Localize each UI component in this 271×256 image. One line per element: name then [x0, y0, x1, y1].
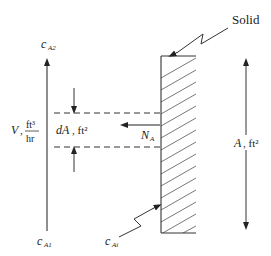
- solid-wall: [161, 56, 196, 240]
- dA-label: dA , ft²: [56, 123, 88, 137]
- svg-text:A1: A1: [43, 241, 52, 249]
- svg-text:N: N: [140, 128, 150, 142]
- solid-label: Solid: [232, 12, 260, 27]
- interface-leader: [119, 206, 158, 237]
- svg-text:, ft²: , ft²: [72, 124, 88, 136]
- solid-leader: [172, 28, 228, 55]
- svg-text:A: A: [233, 136, 242, 150]
- svg-text:A: A: [149, 135, 155, 143]
- svg-text:hr: hr: [26, 133, 35, 144]
- c-bottom-label: c A1: [37, 234, 52, 249]
- c-top-label: c A2: [41, 37, 56, 52]
- svg-text:c: c: [37, 234, 43, 248]
- c-interface-label: c Ai: [105, 234, 118, 249]
- flux-label: N A: [140, 128, 155, 143]
- area-label: A , ft²: [233, 136, 259, 150]
- svg-text:dA: dA: [56, 123, 70, 137]
- svg-text:,: ,: [20, 124, 23, 136]
- svg-text:A2: A2: [47, 44, 56, 52]
- flow-rate-label: V , ft³ hr: [11, 119, 39, 144]
- svg-text:Ai: Ai: [111, 241, 118, 249]
- svg-text:, ft²: , ft²: [243, 137, 259, 149]
- svg-text:V: V: [11, 123, 20, 137]
- svg-text:c: c: [105, 234, 111, 248]
- svg-text:c: c: [41, 37, 47, 51]
- mass-transfer-diagram: Solid c A2 c A1 c Ai V , ft³ hr dA , ft²…: [0, 0, 271, 256]
- svg-text:ft³: ft³: [26, 119, 35, 130]
